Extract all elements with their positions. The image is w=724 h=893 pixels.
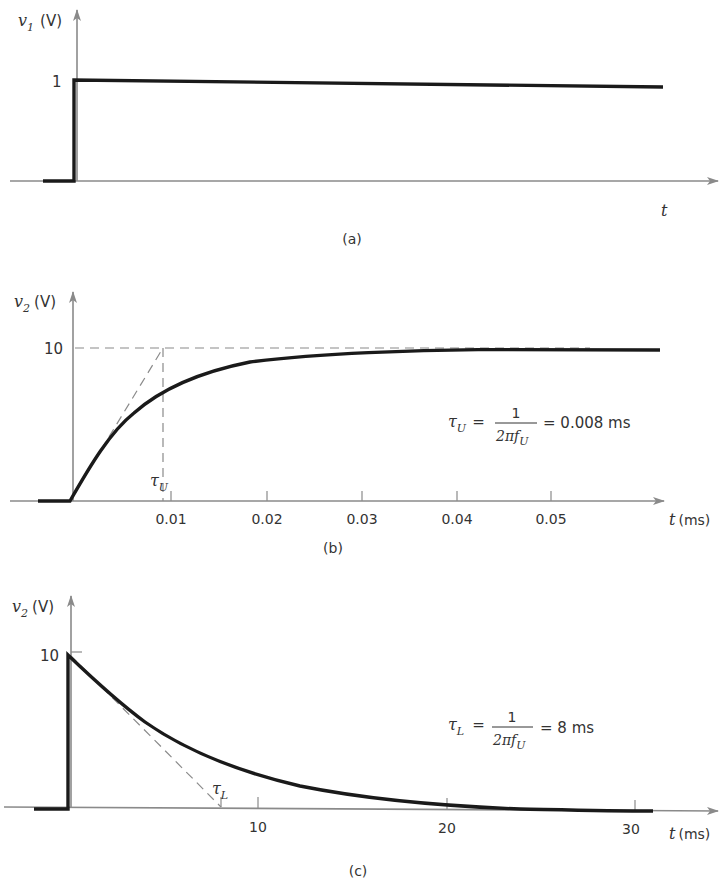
svg-text:τU=: τU= xyxy=(448,412,485,435)
y-tick-label: 10 xyxy=(44,340,63,358)
panel-caption: (c) xyxy=(349,863,368,879)
y-axis-label: v1(V) xyxy=(18,11,62,34)
y-axis-label: v2(V) xyxy=(12,597,54,620)
x-tick-label: 0.05 xyxy=(535,511,566,527)
tau-l-marker: τL xyxy=(212,779,228,802)
panel-c: v2(V) 10 10 20 30 t(ms) τL τL= 1 xyxy=(4,596,718,879)
x-tick-label: 20 xyxy=(438,820,456,836)
y-tick-label: 1 xyxy=(52,73,62,91)
x-tick-label: 10 xyxy=(249,819,267,835)
y-axis-label: v2(V) xyxy=(14,292,56,315)
tau-u-marker: τU xyxy=(150,471,169,494)
step-signal xyxy=(43,80,663,181)
svg-text:2πfU: 2πfU xyxy=(492,732,526,752)
svg-text:1: 1 xyxy=(512,405,521,421)
x-tick-label: 0.01 xyxy=(155,511,186,527)
svg-text:τL=: τL= xyxy=(448,715,485,738)
x-axis-label: t(ms) xyxy=(669,824,710,843)
panel-caption: (b) xyxy=(323,540,343,556)
x-axis-label: t(ms) xyxy=(669,510,710,529)
x-tick-label: 0.04 xyxy=(441,511,472,527)
tau-u-equation: τU= 1 2πfU = 0.008 ms xyxy=(448,405,631,448)
panel-b: v2(V) 10 0.01 0.02 0.03 0.04 0.05 t(ms) … xyxy=(10,292,710,556)
svg-text:= 0.008 ms: = 0.008 ms xyxy=(543,414,631,432)
tau-l-equation: τL= 1 2πfU = 8 ms xyxy=(448,709,594,752)
x-tick-label: 30 xyxy=(622,821,640,837)
svg-text:= 8 ms: = 8 ms xyxy=(540,719,594,737)
panel-caption: (a) xyxy=(342,231,362,247)
panel-a: v1(V) 1 t (a) xyxy=(10,10,718,247)
x-tick-label: 0.02 xyxy=(251,511,282,527)
figure-canvas: v1(V) 1 t (a) v2(V) 10 0.01 0.02 0.03 0.… xyxy=(0,0,724,893)
svg-text:2πfU: 2πfU xyxy=(495,428,529,448)
x-axis-label: t xyxy=(661,201,668,220)
svg-text:1: 1 xyxy=(508,709,517,725)
x-ticks xyxy=(171,491,551,501)
x-tick-label: 0.03 xyxy=(346,511,377,527)
y-tick-label: 10 xyxy=(40,647,59,665)
